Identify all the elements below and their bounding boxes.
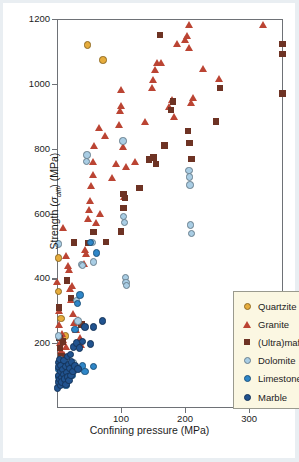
y-axis-title-symbol: σ [48, 197, 60, 203]
legend-swatch [244, 339, 250, 345]
y-tick-label-600: 600 [6, 208, 50, 219]
data-point-ultramafics-23 [170, 98, 176, 104]
legend-item-quartzite[interactable]: Quartzite [234, 297, 299, 315]
data-point-ultramafics-2 [57, 345, 63, 351]
legend-label: Limestone [258, 373, 299, 384]
data-point-dolomite-12 [83, 151, 90, 158]
data-point-dolomite-20 [123, 282, 130, 289]
data-point-dolomite-1 [55, 332, 62, 339]
data-point-dolomite-25 [188, 230, 195, 237]
legend-marker-icon [241, 303, 253, 310]
data-point-ultramafics-18 [150, 154, 156, 160]
data-point-granite-32 [89, 158, 97, 165]
data-point-granite-36 [96, 210, 104, 217]
legend-label: (Ultra)mafics [258, 337, 299, 348]
data-point-dolomite-10 [79, 262, 86, 269]
data-point-ultramafics-11 [103, 239, 109, 245]
data-point-granite-37 [101, 132, 109, 139]
data-point-granite-51 [151, 66, 159, 73]
y-axis-title: Strength (σdiff) (MPa) [48, 71, 62, 331]
data-point-ultramafics-21 [161, 142, 167, 148]
x-tick-label-200: 200 [165, 413, 205, 424]
data-point-dolomite-15 [119, 137, 126, 144]
legend-item-granite[interactable]: Granite [234, 315, 299, 333]
x-tick-label-100: 100 [101, 413, 141, 424]
y-tick-label-1000: 1000 [6, 78, 50, 89]
y-tick-200 [52, 343, 57, 344]
data-point-granite-26 [82, 250, 90, 257]
data-point-granite-66 [259, 21, 267, 28]
data-point-granite-60 [185, 44, 193, 51]
data-point-granite-29 [86, 197, 94, 204]
legend-item-dolomite[interactable]: Dolomite [234, 352, 299, 370]
data-point-ultramafics-12 [118, 228, 124, 234]
legend-label: Quartzite [258, 301, 297, 312]
data-point-granite-46 [122, 163, 130, 170]
data-point-granite-50 [149, 76, 157, 83]
data-point-marble-34 [81, 323, 88, 330]
legend-swatch [244, 375, 251, 382]
y-tick-label-1200: 1200 [6, 13, 50, 24]
data-point-marble-37 [99, 317, 106, 324]
y-tick-label-200: 200 [6, 337, 50, 348]
data-point-marble-24 [67, 351, 74, 358]
data-point-granite-59 [183, 32, 191, 39]
page-edge-left [0, 0, 3, 462]
data-point-granite-12 [62, 252, 70, 259]
legend-marker-icon [241, 357, 253, 364]
page-edge-top [0, 0, 299, 3]
y-axis-title-tail: ) (MPa) [48, 153, 60, 188]
plot-area: 20040060080010001200100200300 Strength (… [57, 19, 283, 408]
data-point-dolomite-17 [121, 219, 128, 226]
data-point-marble-33 [79, 338, 86, 345]
data-point-marble-32 [76, 344, 83, 351]
data-point-ultramafics-13 [120, 205, 126, 211]
data-point-dolomite-23 [186, 181, 193, 188]
data-point-granite-65 [215, 75, 223, 82]
data-point-ultramafics-28 [217, 85, 223, 91]
data-point-ultramafics-31 [279, 90, 285, 96]
data-point-granite-63 [189, 94, 197, 101]
data-point-limestone-12 [71, 326, 78, 333]
data-point-granite-40 [115, 121, 123, 128]
legend-marker-icon [241, 339, 253, 345]
y-tick-1200 [52, 19, 57, 20]
data-point-granite-38 [108, 174, 116, 181]
legend-swatch [244, 394, 251, 401]
legend-swatch [244, 303, 251, 310]
legend-item-limestone[interactable]: Limestone [234, 370, 299, 388]
data-point-ultramafics-26 [188, 156, 194, 162]
figure-canvas: 20040060080010001200100200300 Strength (… [0, 0, 299, 462]
page-edge-bottom [0, 458, 299, 462]
data-point-quartzite-4 [84, 41, 91, 48]
data-point-limestone-18 [90, 363, 97, 370]
data-point-granite-42 [117, 102, 125, 109]
data-point-granite-31 [89, 171, 97, 178]
data-point-ultramafics-16 [136, 185, 142, 191]
data-point-limestone-14 [76, 291, 83, 298]
data-point-ultramafics-22 [168, 107, 174, 113]
y-tick-label-400: 400 [6, 272, 50, 283]
data-point-ultramafics-30 [279, 51, 285, 57]
data-point-marble-36 [90, 323, 97, 330]
data-point-granite-56 [170, 113, 178, 120]
y-tick-label-800: 800 [6, 143, 50, 154]
data-point-granite-34 [92, 219, 100, 226]
legend-item-marble[interactable]: Marble [234, 388, 299, 406]
legend-marker-icon [241, 321, 253, 328]
data-point-marble-31 [74, 365, 81, 372]
data-point-granite-49 [148, 84, 156, 91]
data-point-ultramafics-25 [186, 140, 192, 146]
data-point-ultramafics-5 [64, 277, 70, 283]
data-point-ultramafics-29 [279, 41, 285, 47]
data-point-ultramafics-27 [213, 118, 219, 124]
data-point-granite-39 [112, 160, 120, 167]
legend-swatch [243, 321, 251, 328]
data-point-marble-35 [87, 340, 94, 347]
data-point-dolomite-24 [187, 221, 194, 228]
legend-label: Granite [258, 319, 289, 330]
legend-item-ultramafics[interactable]: (Ultra)mafics [234, 333, 299, 351]
data-point-limestone-19 [93, 249, 100, 256]
data-point-ultramafics-15 [122, 195, 128, 201]
legend-marker-icon [241, 394, 253, 401]
